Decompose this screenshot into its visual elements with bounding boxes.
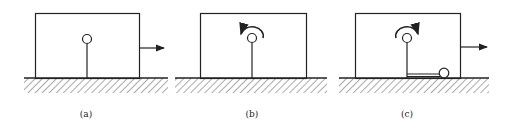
ground-hatch: [175, 78, 327, 93]
panel-label-b: (b): [246, 109, 259, 119]
block: [201, 14, 307, 79]
ground-hatch: [339, 78, 489, 93]
panel-label-c: (c): [401, 109, 413, 119]
ground-ball: [439, 68, 449, 78]
panel-label-a: (a): [80, 109, 92, 119]
panel-b: (b): [175, 14, 327, 120]
ground-hatch: [24, 78, 168, 93]
panel-c: (c): [339, 14, 489, 120]
top-ball: [403, 34, 412, 43]
figure-canvas: (a) (b) (c): [0, 0, 512, 128]
panel-a: (a): [24, 14, 168, 120]
ball: [83, 35, 92, 44]
ball: [248, 34, 257, 43]
